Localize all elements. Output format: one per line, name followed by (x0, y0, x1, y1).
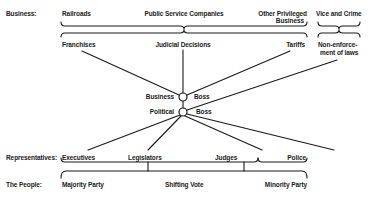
label-nonenforcement-2: ment of laws (320, 49, 358, 57)
label-shifting-vote: Shifting Vote (165, 181, 203, 189)
label-minority-party: Minority Party (257, 181, 307, 189)
label-political-boss: Boss (196, 108, 212, 116)
row-label-representatives: Representatives: (6, 154, 57, 162)
row-label-people: The People: (6, 181, 42, 189)
line-franchises (82, 51, 179, 95)
line-judges (185, 116, 262, 150)
label-political-node: Political (135, 108, 174, 116)
label-other-privileged-2: Business (256, 17, 304, 25)
label-franchises: Franchises (62, 41, 95, 49)
political-boss-node (179, 108, 187, 116)
label-public-service: Public Service Companies (140, 10, 228, 18)
brace-people (61, 171, 307, 178)
label-vice-crime: Vice and Crime (316, 10, 362, 18)
brace-business-bottom (61, 30, 307, 37)
label-majority-party: Majority Party (62, 181, 104, 189)
label-judicial-decisions: Judicial Decisions (148, 41, 218, 49)
label-business-boss: Boss (194, 93, 210, 101)
row-label-business: Business: (6, 10, 36, 18)
label-judges: Judges (215, 154, 237, 162)
label-tariffs: Tariffs (265, 41, 305, 49)
label-police: Police (274, 154, 306, 162)
label-railroads: Railroads (62, 10, 91, 18)
line-tariffs (187, 51, 290, 95)
brace-vice-bottom (318, 30, 360, 37)
label-business-node: Business (135, 93, 174, 101)
label-legislators: Legislators (128, 154, 162, 162)
line-executives (88, 115, 180, 150)
brace-vice-top (318, 22, 360, 29)
business-boss-node (179, 93, 187, 101)
line-police (187, 114, 334, 150)
diagram-lines (0, 0, 372, 204)
label-executives: Executives (62, 154, 95, 162)
